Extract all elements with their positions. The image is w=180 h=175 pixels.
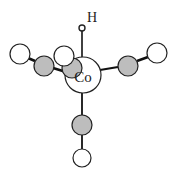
molecule-diagram: Co H (0, 0, 180, 175)
atom-c-right (118, 56, 138, 76)
atom-o-left-back (54, 46, 74, 66)
cobalt-label: Co (74, 69, 92, 85)
hydrogen-label: H (87, 10, 97, 25)
bond-c-o-right (137, 57, 148, 61)
atom-hydrogen (79, 25, 85, 31)
atom-o-left-front (10, 44, 30, 64)
bond-co-c-right (100, 67, 118, 70)
atom-o-bottom (73, 149, 91, 167)
atom-c-left-front (34, 56, 54, 76)
atom-c-bottom (72, 115, 92, 135)
atom-o-right (147, 43, 167, 63)
